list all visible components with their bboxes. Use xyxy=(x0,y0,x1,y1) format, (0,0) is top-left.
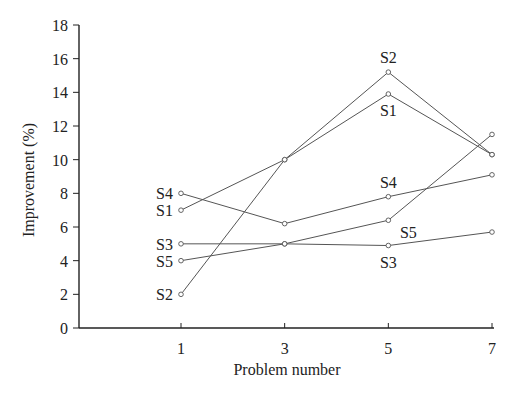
data-point xyxy=(179,242,184,247)
data-point xyxy=(282,221,287,226)
data-point xyxy=(490,152,495,157)
y-axis-ticks: 024681012141618 xyxy=(52,17,79,337)
y-tick-label: 18 xyxy=(52,17,68,34)
data-point xyxy=(490,230,495,235)
series-s1 xyxy=(179,92,495,213)
y-tick-label: 2 xyxy=(60,286,68,303)
y-axis-label: Improvement (%) xyxy=(20,123,38,237)
series-label: S5 xyxy=(400,224,417,241)
data-point xyxy=(386,92,391,97)
series-label: S5 xyxy=(156,253,173,270)
data-point xyxy=(282,157,287,162)
series-label: S4 xyxy=(156,185,173,202)
series-line xyxy=(181,134,492,260)
y-tick-label: 0 xyxy=(60,320,68,337)
data-point xyxy=(490,173,495,178)
series-label: S1 xyxy=(380,102,397,119)
data-point xyxy=(386,70,391,75)
series-label: S3 xyxy=(156,236,173,253)
data-point xyxy=(282,242,287,247)
y-tick-label: 14 xyxy=(52,84,68,101)
series-label: S4 xyxy=(380,174,397,191)
data-point xyxy=(386,194,391,199)
series-labels: S4S1S3S5S2S2S1S4S5S3 xyxy=(156,49,417,303)
x-tick-label: 1 xyxy=(177,340,185,357)
series-label: S3 xyxy=(380,254,397,271)
series-label: S2 xyxy=(156,286,173,303)
series-label: S1 xyxy=(156,202,173,219)
x-axis-label: Problem number xyxy=(233,361,341,378)
series-line xyxy=(181,72,492,294)
data-point xyxy=(386,218,391,223)
y-tick-label: 10 xyxy=(52,152,68,169)
x-tick-label: 5 xyxy=(384,340,392,357)
y-tick-label: 8 xyxy=(60,185,68,202)
series-label: S2 xyxy=(380,49,397,66)
series-s2 xyxy=(179,70,495,297)
y-tick-label: 16 xyxy=(52,51,68,68)
data-point xyxy=(179,292,184,297)
y-tick-label: 4 xyxy=(60,253,68,270)
y-tick-label: 12 xyxy=(52,118,68,135)
series-line xyxy=(181,175,492,224)
series-s4 xyxy=(179,173,495,226)
x-tick-label: 7 xyxy=(488,340,496,357)
line-chart: 024681012141618 1357 Improvement (%) Pro… xyxy=(0,0,513,396)
data-point xyxy=(179,258,184,263)
data-point xyxy=(386,243,391,248)
plot-area xyxy=(179,70,495,297)
data-point xyxy=(179,191,184,196)
x-tick-label: 3 xyxy=(281,340,289,357)
series-line xyxy=(181,94,492,210)
y-tick-label: 6 xyxy=(60,219,68,236)
data-point xyxy=(490,132,495,137)
data-point xyxy=(179,208,184,213)
